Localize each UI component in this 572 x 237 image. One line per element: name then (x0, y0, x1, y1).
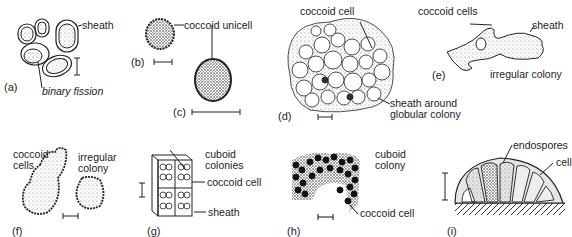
label-g-sheath: sheath (208, 207, 240, 218)
panel-tag-e: (e) (432, 69, 445, 81)
label-f-cells: cells (13, 160, 34, 171)
panel-tag-h: (h) (287, 225, 300, 237)
panel-tag-g: (g) (147, 225, 160, 237)
label-e-sheath: sheath (532, 20, 564, 31)
label-a-binary-fission: binary fission (42, 86, 103, 97)
label-i-cell: cell (556, 157, 572, 168)
panel-tag-b: (b) (131, 56, 144, 68)
panel-tag-c: (c) (173, 106, 186, 118)
panel-d-drawing (288, 18, 394, 120)
panel-b-drawing (146, 19, 184, 65)
panel-g-drawing (139, 150, 206, 216)
label-a-sheath: sheath (82, 20, 114, 31)
panel-tag-d: (d) (278, 110, 291, 122)
panel-i-drawing (442, 145, 565, 215)
label-b-coccoid-unicell: coccoid unicell (184, 20, 252, 31)
panel-tag-i: (i) (447, 225, 457, 237)
label-e-coccoid-cells: coccoid cells (418, 6, 478, 17)
label-h-colony: colony (375, 160, 405, 171)
panel-a-drawing (18, 19, 82, 88)
label-d-coccoid-cell: coccoid cell (300, 6, 354, 17)
label-e-irregular-colony: irregular colony (490, 69, 562, 80)
panel-tag-f: (f) (12, 225, 22, 237)
label-i-endospores: endospores (513, 140, 568, 151)
label-f-colony: colony (78, 163, 108, 174)
panel-c-drawing (192, 25, 240, 115)
panel-h-drawing (292, 153, 360, 220)
label-g-colonies: colonies (205, 160, 244, 171)
panel-tag-a: (a) (4, 81, 17, 93)
label-d-globular-colony: globular colony (390, 109, 461, 120)
label-h-coccoid-cell: coccoid cell (360, 208, 414, 219)
panel-e-drawing (447, 24, 543, 71)
label-g-coccoid-cell: coccoid cell (207, 177, 261, 188)
